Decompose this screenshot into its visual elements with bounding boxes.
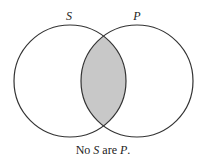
venn-diagram: S P No S are P.: [0, 0, 208, 163]
caption: No S are P.: [76, 143, 131, 157]
label-p: P: [132, 9, 141, 23]
label-s: S: [66, 9, 72, 23]
